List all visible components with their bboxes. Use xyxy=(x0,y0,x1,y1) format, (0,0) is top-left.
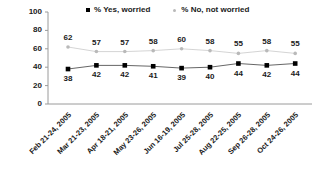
data-point-marker-yes-worried xyxy=(151,64,156,69)
y-axis-tick-label: 40 xyxy=(16,63,42,71)
data-point-marker-no-not-worried xyxy=(151,49,155,53)
data-point-marker-no-not-worried xyxy=(265,49,269,53)
data-point-marker-yes-worried xyxy=(179,66,184,71)
data-point-marker-no-not-worried xyxy=(180,47,184,51)
data-point-marker-no-not-worried xyxy=(123,50,127,54)
data-point-marker-yes-worried xyxy=(265,63,270,68)
y-axis-tick-label: 100 xyxy=(16,8,42,16)
data-label-no-not-worried: 58 xyxy=(199,38,221,46)
data-point-marker-no-not-worried xyxy=(208,49,212,53)
data-point-marker-yes-worried xyxy=(208,65,213,70)
y-axis-tick-label: 60 xyxy=(16,45,42,53)
data-label-yes-worried: 44 xyxy=(284,70,306,78)
data-point-marker-yes-worried xyxy=(293,61,298,66)
data-point-marker-yes-worried xyxy=(94,63,99,68)
data-label-no-not-worried: 57 xyxy=(85,39,107,47)
y-axis-tick-label: 80 xyxy=(16,26,42,34)
y-axis-tick-label: 20 xyxy=(16,82,42,90)
data-label-yes-worried: 38 xyxy=(57,75,79,83)
data-point-marker-no-not-worried xyxy=(66,45,70,49)
data-label-yes-worried: 42 xyxy=(85,71,107,79)
data-label-no-not-worried: 62 xyxy=(57,34,79,42)
data-label-yes-worried: 42 xyxy=(114,71,136,79)
data-label-yes-worried: 42 xyxy=(256,71,278,79)
data-point-marker-yes-worried xyxy=(236,61,241,66)
plot-area xyxy=(0,0,322,184)
data-label-no-not-worried: 60 xyxy=(171,36,193,44)
data-point-marker-yes-worried xyxy=(123,63,128,68)
data-point-marker-no-not-worried xyxy=(237,52,241,56)
chart-container: % Yes, worried % No, not worried 0204060… xyxy=(0,0,322,184)
y-axis-tick-label: 0 xyxy=(16,100,42,108)
data-label-no-not-worried: 55 xyxy=(284,40,306,48)
data-label-yes-worried: 39 xyxy=(171,74,193,82)
data-label-yes-worried: 44 xyxy=(227,70,249,78)
data-label-no-not-worried: 57 xyxy=(114,39,136,47)
data-label-yes-worried: 40 xyxy=(199,73,221,81)
data-point-marker-no-not-worried xyxy=(95,50,99,54)
data-point-marker-no-not-worried xyxy=(293,52,297,56)
data-label-yes-worried: 41 xyxy=(142,72,164,80)
data-label-no-not-worried: 58 xyxy=(256,38,278,46)
data-label-no-not-worried: 58 xyxy=(142,38,164,46)
data-point-marker-yes-worried xyxy=(66,67,71,72)
data-label-no-not-worried: 55 xyxy=(227,40,249,48)
